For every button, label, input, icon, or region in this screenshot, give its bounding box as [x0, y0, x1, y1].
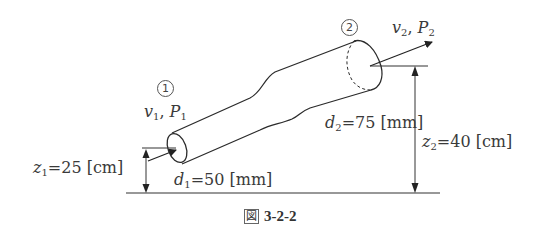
- figure-caption: 図3-2-2: [244, 208, 297, 225]
- figure-number: 3-2-2: [264, 208, 297, 224]
- p2-symbol: P: [418, 18, 429, 37]
- section-2-marker: 2: [341, 19, 358, 36]
- d1-symbol: d: [174, 170, 184, 189]
- section-1-marker: 1: [157, 80, 174, 97]
- z1-arrowhead-top: [143, 149, 150, 158]
- separator: ,: [159, 102, 164, 121]
- p2-subscript: 2: [428, 27, 434, 38]
- figure-prefix: 図: [244, 209, 259, 224]
- z2-value: =40 [cm]: [437, 132, 512, 151]
- d1-value: =50 [mm]: [191, 170, 273, 189]
- outlet-cap: [354, 41, 382, 90]
- d2-label: d2=75 [mm]: [325, 115, 423, 133]
- section-2-label: v2, P2: [392, 20, 435, 38]
- pipe-diagram: [0, 0, 552, 243]
- d2-symbol: d: [325, 113, 335, 132]
- z2-arrowhead-bottom: [412, 183, 419, 193]
- d2-value: =75 [mm]: [342, 113, 424, 132]
- pipe-body: [172, 41, 371, 164]
- d1-label: d1=50 [mm]: [174, 172, 272, 190]
- p1-symbol: P: [170, 102, 181, 121]
- outlet-hidden-edge: [347, 41, 371, 90]
- v2-symbol: v: [392, 18, 401, 37]
- z2-label: z2=40 [cm]: [422, 134, 512, 152]
- z1-value: =25 [cm]: [48, 158, 123, 177]
- separator: ,: [407, 18, 412, 37]
- v1-symbol: v: [144, 102, 153, 121]
- z2-arrowhead-top: [412, 66, 419, 76]
- z1-label: z1=25 [cm]: [33, 160, 123, 178]
- z1-arrowhead-bottom: [143, 184, 150, 193]
- p1-subscript: 1: [180, 111, 186, 122]
- section-1-label: v1, P1: [144, 104, 187, 122]
- outflow-arrow: [370, 42, 432, 66]
